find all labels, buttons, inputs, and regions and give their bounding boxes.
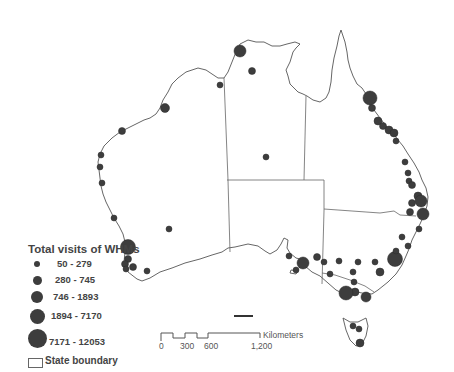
visit-point bbox=[393, 248, 399, 254]
visit-point bbox=[356, 339, 364, 347]
border-nt-qld bbox=[304, 96, 306, 180]
border-wa bbox=[224, 78, 230, 252]
visit-point bbox=[351, 279, 357, 285]
visit-point bbox=[407, 209, 414, 216]
visit-point bbox=[417, 208, 429, 220]
scale-tick-0: 0 bbox=[159, 341, 164, 351]
visit-point bbox=[314, 254, 321, 261]
legend-circle-icon bbox=[28, 329, 47, 348]
visit-point bbox=[119, 128, 126, 135]
visit-point bbox=[393, 138, 399, 144]
state-boundary-label: State boundary bbox=[45, 355, 118, 366]
legend-circle-icon bbox=[30, 309, 45, 324]
visit-point bbox=[405, 170, 411, 176]
visit-point bbox=[399, 234, 405, 240]
border-qld-nsw bbox=[324, 209, 416, 216]
visit-point bbox=[249, 68, 256, 75]
visit-point bbox=[405, 243, 411, 249]
scale-unit: Kilometers bbox=[263, 330, 303, 340]
visit-point bbox=[336, 258, 342, 264]
visit-point bbox=[98, 152, 104, 158]
coastline-tasmania bbox=[343, 318, 368, 346]
legend-circle-icon bbox=[34, 261, 40, 267]
legend: Total visits of WHMs 50 - 279280 - 74574… bbox=[28, 243, 158, 363]
visit-point bbox=[402, 159, 408, 165]
visit-point bbox=[161, 104, 170, 113]
scale-tick-1200: 1,200 bbox=[251, 341, 272, 351]
visit-point bbox=[339, 286, 353, 300]
visit-point bbox=[99, 180, 105, 186]
legend-circle-icon bbox=[31, 291, 43, 303]
visit-point bbox=[166, 226, 172, 232]
visit-point bbox=[415, 195, 427, 207]
visit-point bbox=[361, 292, 371, 302]
visit-point bbox=[286, 253, 292, 259]
visit-point bbox=[416, 226, 422, 232]
scale-tick-600: 600 bbox=[204, 341, 218, 351]
visit-point bbox=[363, 91, 377, 105]
visit-point bbox=[369, 105, 376, 112]
legend-class-label: 50 - 279 bbox=[57, 258, 92, 269]
legend-class-label: 746 - 1893 bbox=[53, 291, 98, 302]
legend-class-label: 1894 - 7170 bbox=[51, 310, 102, 321]
visit-point bbox=[390, 129, 398, 137]
visit-point bbox=[372, 259, 378, 265]
visit-point bbox=[355, 259, 361, 265]
visit-point bbox=[321, 259, 327, 265]
legend-title: Total visits of WHMs bbox=[28, 243, 140, 255]
legend-circle-icon bbox=[33, 276, 42, 285]
visit-point bbox=[297, 257, 309, 269]
visit-point bbox=[111, 215, 117, 221]
visit-point bbox=[409, 200, 416, 207]
scale-bar: Kilometers 0 300 600 1,200 bbox=[160, 327, 340, 357]
legend-class-label: 280 - 745 bbox=[55, 274, 95, 285]
border-sa-qld-nsw bbox=[322, 180, 324, 284]
legend-class-label: 7171 - 12053 bbox=[49, 336, 105, 347]
visit-point bbox=[234, 45, 246, 57]
state-boundary-symbol bbox=[28, 358, 43, 368]
visit-point bbox=[217, 82, 223, 88]
visit-point bbox=[263, 154, 269, 160]
visit-point bbox=[376, 268, 384, 276]
visit-point bbox=[350, 269, 356, 275]
visit-point bbox=[409, 182, 416, 189]
scale-tick-300: 300 bbox=[180, 341, 194, 351]
visit-point bbox=[293, 267, 299, 273]
visit-point bbox=[327, 271, 333, 277]
visit-point bbox=[350, 323, 356, 329]
visit-point bbox=[97, 164, 103, 170]
visit-point bbox=[356, 326, 362, 332]
